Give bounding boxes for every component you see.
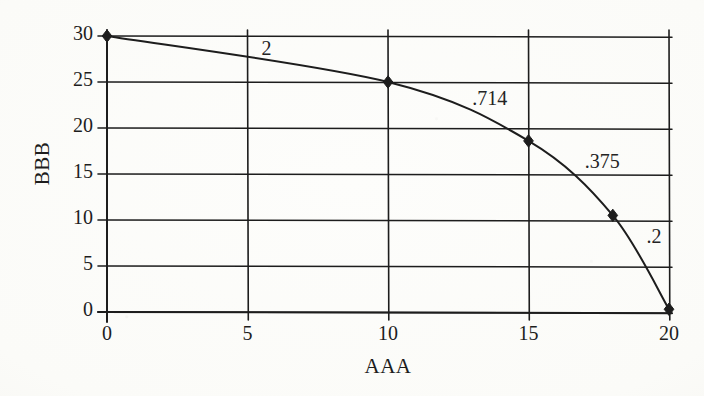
slope-annotation: .714 (472, 87, 507, 110)
gridline-vertical (669, 30, 670, 320)
axis-ticks-group (98, 36, 107, 312)
y-tick-label: 0 (49, 298, 93, 321)
gridline-horizontal (107, 266, 672, 267)
y-tick-label: 30 (49, 22, 93, 45)
gridline-vertical (388, 30, 389, 320)
x-axis-title: AAA (348, 354, 428, 379)
gridlines-group (107, 30, 672, 320)
slope-annotation: .2 (647, 225, 662, 248)
y-tick-label: 15 (49, 160, 93, 183)
x-tick-label: 15 (509, 322, 549, 345)
slope-annotation: .375 (585, 150, 620, 173)
x-tick-label: 20 (649, 322, 689, 345)
y-tick-label: 25 (49, 68, 93, 91)
x-tick-label: 0 (87, 322, 127, 345)
chart-figure: BBB AAA 05101520 051015202530 2.714.375.… (0, 0, 704, 396)
gridline-vertical (529, 30, 530, 320)
gridline-vertical (248, 30, 249, 320)
gridline-horizontal (107, 174, 672, 175)
gridline-horizontal (107, 36, 672, 37)
x-tick-label: 5 (228, 322, 268, 345)
gridline-horizontal (107, 220, 672, 221)
data-marker-2 (524, 135, 534, 147)
x-axis-line (98, 312, 672, 313)
data-marker-1 (383, 76, 393, 88)
x-tick-label: 10 (368, 322, 408, 345)
y-tick-label: 20 (49, 114, 93, 137)
data-marker-0 (102, 30, 112, 42)
gridline-horizontal (107, 128, 672, 129)
y-tick-label: 5 (49, 252, 93, 275)
axis-lines-group (98, 30, 672, 322)
slope-annotation: 2 (262, 37, 272, 60)
y-tick-label: 10 (49, 206, 93, 229)
